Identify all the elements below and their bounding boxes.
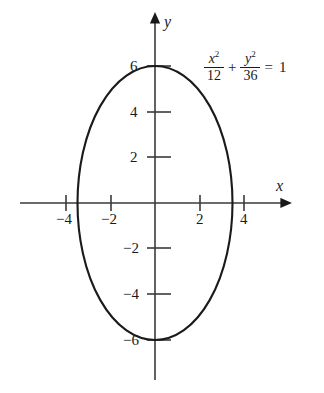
equation-term-x-numerator: x2: [206, 50, 223, 67]
x-tick-label-pos2: 2: [196, 212, 204, 227]
y-tick-label-pos4: 4: [130, 105, 138, 120]
x-tick-label-neg4: −4: [56, 212, 72, 227]
equation-annotation: x2 12 + y2 36 = 1: [203, 50, 286, 84]
equation-term-x: x2 12: [204, 50, 224, 84]
x-tick-label-neg2: −2: [101, 212, 117, 227]
equation-exp-y: 2: [251, 49, 256, 59]
x-axis-label: x: [276, 178, 283, 194]
equation-denominator-12: 12: [204, 68, 224, 84]
equation-exp-x: 2: [215, 49, 220, 59]
equation-term-y-numerator: y2: [242, 50, 259, 67]
equation-denominator-36: 36: [240, 68, 260, 84]
y-tick-label-pos6: 6: [130, 59, 138, 74]
y-tick-label-neg4: −4: [123, 287, 139, 302]
y-axis-label: y: [164, 14, 171, 30]
equation-term-y: y2 36: [240, 50, 260, 84]
y-tick-label-neg2: −2: [123, 241, 139, 256]
x-tick-label-pos4: 4: [240, 212, 248, 227]
equation-right-hand-side: 1: [279, 60, 287, 75]
y-tick-label-pos2: 2: [130, 150, 138, 165]
y-tick-label-neg6: −6: [123, 333, 139, 348]
equation-plus-operator: +: [228, 60, 236, 75]
ellipse-graph-figure: −4 −2 2 4 6 4 2 −2 −4 −6 x y x2 12 + y2 …: [0, 0, 324, 393]
equation-equals-sign: =: [264, 60, 272, 75]
